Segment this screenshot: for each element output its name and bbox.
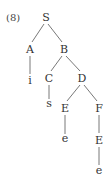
edge-D-E <box>67 85 80 101</box>
node-e-2: e <box>96 164 103 177</box>
edge-S-B <box>48 24 62 42</box>
edge-D-F <box>84 85 97 101</box>
syntax-tree-diagram: (8) S A B i C D s E F e E e <box>0 0 111 178</box>
node-E-2: E <box>95 134 103 147</box>
node-B: B <box>60 43 68 56</box>
node-D: D <box>78 72 87 85</box>
node-E: E <box>61 102 69 115</box>
node-e: e <box>62 132 69 145</box>
edge-S-A <box>32 24 44 42</box>
edge-B-D <box>66 56 80 71</box>
node-F: F <box>95 102 103 115</box>
node-A: A <box>25 43 35 56</box>
node-i: i <box>28 74 32 87</box>
node-S: S <box>42 11 50 24</box>
edge-B-C <box>51 56 62 71</box>
example-number: (8) <box>6 12 20 23</box>
node-C: C <box>45 72 53 85</box>
node-s: s <box>46 97 52 110</box>
